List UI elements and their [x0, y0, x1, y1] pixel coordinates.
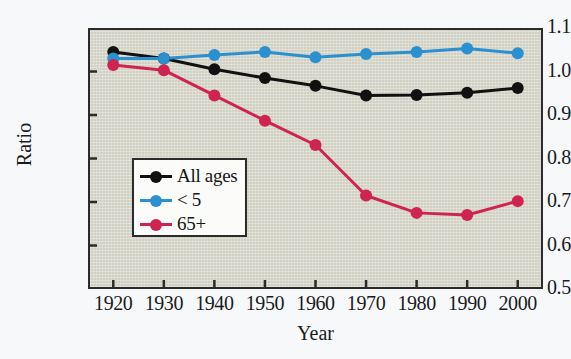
data-point-marker: [461, 209, 473, 221]
legend-marker-icon: [140, 217, 172, 231]
data-point-marker: [360, 48, 372, 60]
data-point-marker: [360, 89, 372, 101]
legend-item-label: All ages: [177, 165, 237, 187]
chart-series-overlay: [0, 0, 571, 359]
data-point-marker: [411, 207, 423, 219]
data-point-marker: [411, 46, 423, 58]
legend-marker-icon: [140, 169, 172, 183]
legend-marker-icon: [140, 193, 172, 207]
chart-figure: 0.50.60.70.80.91.01.1 192019301940195019…: [0, 0, 571, 359]
data-point-marker: [512, 195, 524, 207]
data-point-marker: [310, 80, 322, 92]
data-point-marker: [208, 63, 220, 75]
data-point-marker: [310, 139, 322, 151]
data-point-marker: [461, 87, 473, 99]
legend-item: < 5: [140, 188, 245, 212]
data-point-marker: [360, 189, 372, 201]
data-point-marker: [310, 51, 322, 63]
data-point-marker: [259, 72, 271, 84]
data-point-marker: [411, 89, 423, 101]
data-point-marker: [107, 59, 119, 71]
data-point-marker: [158, 52, 170, 64]
legend-item: All ages: [140, 164, 245, 188]
data-point-marker: [208, 89, 220, 101]
data-point-marker: [259, 115, 271, 127]
legend-item: 65+: [140, 212, 245, 236]
data-point-marker: [158, 64, 170, 76]
data-point-marker: [461, 42, 473, 54]
data-point-marker: [259, 46, 271, 58]
data-point-marker: [208, 49, 220, 61]
data-point-marker: [512, 82, 524, 94]
chart-legend: All ages< 565+: [132, 158, 247, 237]
legend-item-label: 65+: [177, 213, 206, 235]
legend-item-label: < 5: [177, 189, 201, 211]
data-point-marker: [512, 47, 524, 59]
